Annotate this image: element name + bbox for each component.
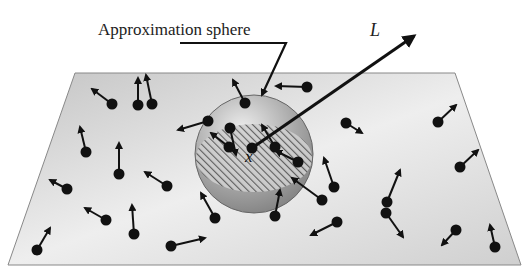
particle-dot [107, 99, 118, 110]
particle-dot [147, 99, 158, 110]
particle-dot [451, 225, 462, 236]
particle-dot [302, 82, 313, 93]
particle-dot [293, 157, 304, 168]
particle-dot [270, 211, 281, 222]
particle-dot [224, 142, 235, 153]
particle-dot [162, 181, 173, 192]
particle-dot [114, 169, 125, 180]
particle-dot [133, 100, 144, 111]
particle-dot [332, 217, 343, 228]
particle-dot [62, 184, 73, 195]
particle-dot [270, 142, 281, 153]
particle-dot [32, 245, 43, 256]
particle-dot [225, 123, 236, 134]
sphere-label: Approximation sphere [98, 20, 251, 40]
particle-dot [490, 242, 501, 253]
diagram-canvas [0, 0, 529, 272]
particle-dot [166, 241, 177, 252]
particle-dot [240, 98, 251, 109]
particle-dot [433, 117, 444, 128]
particle-dot [455, 162, 466, 173]
vector-l-label: L [370, 20, 380, 41]
approximation-sphere [195, 95, 313, 213]
particle-dot [203, 116, 214, 127]
particle-dot [101, 215, 112, 226]
particle-dot [81, 147, 92, 158]
particle-dot [210, 213, 221, 224]
particle-dot [329, 182, 340, 193]
center-x-label: x [245, 147, 253, 167]
particle-dot [129, 229, 140, 240]
particle-dot [341, 118, 352, 129]
particle-dot [382, 197, 393, 208]
particle-dot [317, 195, 328, 206]
particle-dot [381, 208, 392, 219]
